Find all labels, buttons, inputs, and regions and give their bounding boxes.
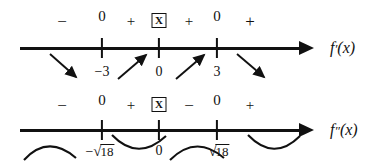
sign-positive-2: + [185, 11, 193, 31]
sign-negative-2: + [245, 12, 255, 32]
undefined2-marker-boxed-x: X [152, 97, 167, 112]
arrow-decreasing-1 [50, 54, 76, 77]
sign2-positive-1: + [127, 95, 135, 115]
second-line-sign-row: − 0 + X − 0 + [0, 94, 378, 114]
zero2-marker-right: 0 [213, 90, 221, 110]
arc-concave-up-1 [112, 135, 166, 149]
first-derivative-chart: − 0 + X + 0 + f′(x) −3 0 3 [0, 0, 378, 88]
second-line-concavity-arcs [0, 132, 378, 166]
first-line-trend-arrows [0, 52, 378, 88]
arrow-increasing-2 [176, 55, 204, 79]
second-derivative-chart: − 0 + X − 0 + f″(x) −√18 0 √18 [0, 86, 378, 167]
zero-marker-right: 0 [213, 6, 221, 26]
arc-concave-up-2 [248, 135, 300, 149]
arc-concave-down-1 [24, 146, 76, 160]
undefined-marker-boxed-x: X [152, 13, 167, 28]
axis-line [20, 47, 302, 50]
sign2-negative-1: − [57, 96, 67, 116]
arrow-increasing-1 [118, 55, 146, 79]
sign2-negative-2: − [184, 96, 194, 116]
zero2-marker-left: 0 [98, 90, 106, 110]
sign-negative-1: − [57, 12, 67, 32]
arrow-decreasing-2 [237, 54, 264, 77]
first-line-sign-row: − 0 + X + 0 + [0, 10, 378, 30]
arc-concave-down-2 [170, 146, 224, 160]
zero-marker-left: 0 [98, 6, 106, 26]
sign2-positive-2: + [246, 95, 254, 115]
sign-positive-1: + [127, 11, 135, 31]
